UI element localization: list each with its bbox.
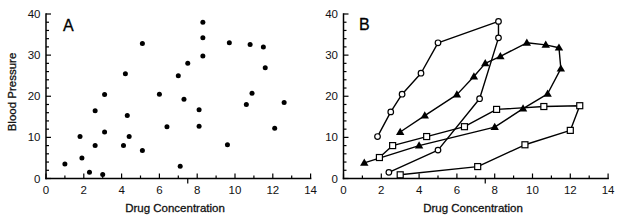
open-square-marker <box>541 104 547 110</box>
y-tick-label: 40 <box>28 8 41 20</box>
y-tick-label: 0 <box>34 173 40 185</box>
panel-b: 01020304002468101214 B Drug Concentratio… <box>325 8 615 214</box>
filled-circle-marker <box>248 42 253 47</box>
y-tick-label: 20 <box>28 90 41 102</box>
filled-circle-marker <box>178 164 183 169</box>
x-axis-title-b: Drug Concentration <box>423 202 523 214</box>
filled-circle-marker <box>100 172 105 177</box>
filled-circle-series-points <box>62 20 286 177</box>
x-tick-label: 2 <box>378 184 384 196</box>
open-square-series-points <box>376 103 582 178</box>
x-tick-label: 14 <box>602 184 615 196</box>
filled-circle-marker <box>62 162 67 167</box>
filled-circle-marker <box>250 91 255 96</box>
y-tick-label: 20 <box>325 90 338 102</box>
panel-b-plot-area: 01020304002468101214 <box>325 8 615 196</box>
filled-circle-marker <box>79 155 84 160</box>
filled-circle-marker <box>140 41 145 46</box>
x-tick-label: 8 <box>194 184 200 196</box>
open-circle-marker <box>418 70 424 76</box>
filled-circle-marker <box>93 143 98 148</box>
filled-circle-marker <box>176 73 181 78</box>
filled-circle-marker <box>78 134 83 139</box>
filled-circle-marker <box>200 20 205 25</box>
filled-circle-marker <box>244 102 249 107</box>
open-circle-marker <box>496 35 502 41</box>
open-circle-marker <box>375 134 381 140</box>
filled-circle-marker <box>225 142 230 147</box>
filled-triangle-marker <box>523 38 531 45</box>
open-circle-series-points <box>375 19 502 176</box>
filled-triangle-marker <box>557 64 565 71</box>
filled-circle-marker <box>127 134 132 139</box>
filled-triangle-marker <box>496 52 504 59</box>
filled-triangle-marker <box>396 128 404 135</box>
open-circle-marker <box>435 147 441 153</box>
open-circle-marker <box>386 170 392 176</box>
filled-circle-marker <box>102 92 107 97</box>
filled-circle-marker <box>87 170 92 175</box>
filled-circle-marker <box>121 143 126 148</box>
x-tick-label: 0 <box>43 184 49 196</box>
x-tick-label: 12 <box>266 184 279 196</box>
open-circle-marker <box>435 40 441 46</box>
filled-circle-marker <box>157 92 162 97</box>
figure-canvas: 01020304002468101214 A Blood Pressure Dr… <box>0 0 618 222</box>
filled-circle-marker <box>200 53 205 58</box>
filled-circle-marker <box>200 35 205 40</box>
panel-a: 01020304002468101214 A Blood Pressure Dr… <box>6 8 318 214</box>
panel-a-plot-area: 01020304002468101214 <box>28 8 318 196</box>
filled-circle-marker <box>197 124 202 129</box>
y-tick-label: 10 <box>325 131 338 143</box>
open-square-marker <box>390 143 396 149</box>
x-tick-label: 6 <box>454 184 460 196</box>
open-square-marker <box>397 172 403 178</box>
filled-circle-marker <box>123 71 128 76</box>
filled-circle-marker <box>261 44 266 49</box>
open-square-marker <box>376 155 382 161</box>
filled-circle-marker <box>227 40 232 45</box>
filled-triangle-marker <box>491 123 499 130</box>
panel-label-b: B <box>359 16 370 33</box>
open-circle-marker <box>388 109 394 115</box>
x-tick-label: 4 <box>416 184 423 196</box>
x-tick-label: 12 <box>564 184 577 196</box>
open-circle-marker <box>496 19 502 25</box>
y-axis-title: Blood Pressure <box>6 53 18 132</box>
open-square-marker <box>494 106 500 112</box>
x-axis-title-a: Drug Concentration <box>125 202 225 214</box>
open-square-marker <box>522 142 528 148</box>
y-tick-label: 10 <box>28 131 41 143</box>
filled-circle-marker <box>125 113 130 118</box>
x-tick-label: 14 <box>304 184 317 196</box>
filled-circle-marker <box>102 130 107 135</box>
x-tick-label: 10 <box>229 184 242 196</box>
open-square-marker <box>475 164 481 170</box>
filled-circle-marker <box>282 100 287 105</box>
open-square-marker <box>577 103 583 109</box>
x-tick-label: 8 <box>491 184 497 196</box>
y-tick-label: 0 <box>332 173 338 185</box>
filled-circle-marker <box>164 124 169 129</box>
x-tick-label: 2 <box>81 184 87 196</box>
open-square-marker <box>461 124 467 130</box>
filled-triangle-marker <box>421 111 429 118</box>
x-tick-label: 0 <box>340 184 346 196</box>
open-square-marker <box>567 127 573 133</box>
filled-circle-marker <box>263 65 268 70</box>
y-tick-label: 30 <box>28 49 41 61</box>
x-tick-label: 6 <box>156 184 162 196</box>
filled-circle-marker <box>272 126 277 131</box>
filled-circle-marker <box>197 107 202 112</box>
figure: 01020304002468101214 A Blood Pressure Dr… <box>0 0 618 222</box>
y-tick-label: 30 <box>325 49 338 61</box>
x-tick-label: 4 <box>118 184 125 196</box>
filled-circle-marker <box>185 61 190 66</box>
x-tick-label: 10 <box>526 184 539 196</box>
filled-triangle-marker <box>543 89 551 96</box>
open-circle-marker <box>399 91 405 97</box>
y-tick-label: 40 <box>325 8 338 20</box>
filled-circle-marker <box>181 97 186 102</box>
filled-circle-marker <box>93 108 98 113</box>
filled-circle-marker <box>140 148 145 153</box>
